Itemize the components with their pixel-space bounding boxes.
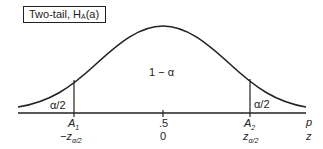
center-region-label: 1 − α — [149, 66, 174, 78]
right-tail-label: α/2 — [254, 98, 270, 110]
tick-label-zero: 0 — [160, 130, 166, 142]
axis-var-p: p — [306, 116, 312, 128]
tick-label-neg-z: −zα/2 — [60, 130, 82, 147]
left-tail-label: α/2 — [50, 99, 66, 111]
axis-var-z: z — [306, 130, 312, 142]
tick-label-half: .5 — [159, 117, 168, 129]
tick-label-pos-z: zα/2 — [243, 130, 258, 147]
